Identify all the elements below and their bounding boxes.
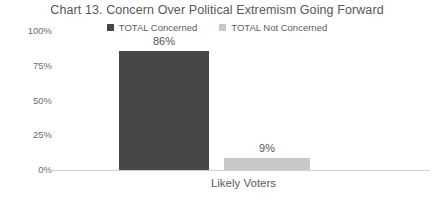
chart-title: Chart 13. Concern Over Political Extremi… [0,3,434,17]
x-axis-label: Likely Voters [57,177,430,189]
bar-label-total-concerned: 86% [119,36,209,47]
y-axis-tick-100: 100% [0,26,52,36]
bar-chart: Chart 13. Concern Over Political Extremi… [0,0,434,200]
y-axis-tick-25: 25% [0,131,52,141]
y-axis-tick-labels: 100% 75% 50% 25% 0% [0,31,52,170]
x-axis-baseline [44,170,430,171]
bar-total-not-concerned[interactable] [224,158,310,171]
bar-label-total-not-concerned: 9% [224,143,310,154]
y-axis-tick-75: 75% [0,61,52,71]
bar-total-concerned[interactable] [119,51,209,171]
plot-area: 86% 9% [57,31,430,170]
y-axis-tick-50: 50% [0,96,52,106]
